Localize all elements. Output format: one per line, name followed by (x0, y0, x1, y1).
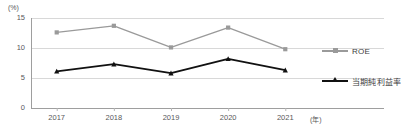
x-axis-tick-label: 2020 (208, 114, 248, 122)
legend-label-net-profit-margin: 当期純利益率 (352, 76, 401, 87)
legend-item-roe: ROE (322, 44, 395, 58)
line-triangle-marker-icon (322, 76, 348, 86)
legend-item-net-profit-margin: 当期純利益率 (322, 74, 395, 88)
data-point-marker (112, 24, 116, 28)
chart-legend: ROE 当期純利益率 (322, 44, 395, 104)
x-axis-tick-label: 2021 (265, 114, 305, 122)
x-axis-tick-label: 2017 (37, 114, 77, 122)
x-axis-tick-label: 2019 (151, 114, 191, 122)
data-point-marker (226, 26, 230, 30)
x-axis-tick-label: 2018 (94, 114, 134, 122)
y-axis-tick-label: 5 (5, 74, 25, 82)
data-point-marker (169, 45, 173, 49)
legend-label-roe: ROE (352, 47, 370, 56)
y-axis-tick-label: 15 (5, 14, 25, 22)
data-point-marker (55, 30, 59, 34)
x-axis-unit-label: (年) (310, 114, 322, 124)
line-square-marker-icon (322, 46, 348, 56)
y-axis-tick-label: 0 (5, 104, 25, 112)
y-axis-tick-label: 10 (5, 44, 25, 52)
data-point-marker (283, 47, 287, 51)
